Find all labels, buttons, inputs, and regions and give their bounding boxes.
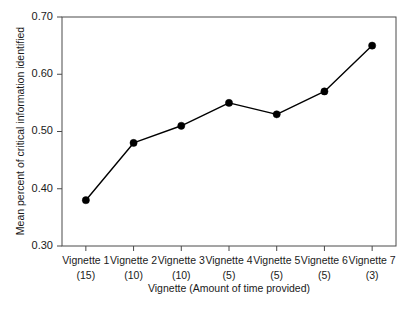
x-tick-label: Vignette 2 [110, 254, 157, 266]
data-point-marker [369, 42, 376, 49]
data-point-marker [321, 88, 328, 95]
data-point-marker [178, 122, 185, 129]
x-tick-sublabel: (5) [223, 269, 236, 281]
data-point-marker [82, 197, 89, 204]
x-axis-ticks [86, 246, 372, 251]
x-axis-title: Vignette (Amount of time provided) [148, 282, 310, 294]
y-tick-label: 0.40 [32, 182, 53, 194]
x-tick-label: Vignette 4 [205, 254, 252, 266]
data-point-marker [225, 99, 232, 106]
y-tick-label: 0.50 [32, 124, 53, 136]
y-axis-title: Mean percent of critical information ide… [14, 27, 26, 236]
data-point-marker [130, 139, 137, 146]
x-tick-label: Vignette 3 [158, 254, 205, 266]
chart-figure: 0.300.400.500.600.70 Vignette 1(15)Vigne… [0, 0, 418, 311]
x-tick-sublabel: (15) [77, 269, 96, 281]
y-axis-ticks [57, 17, 62, 246]
x-tick-label: Vignette 7 [349, 254, 396, 266]
y-tick-label: 0.30 [32, 239, 53, 251]
x-tick-labels: Vignette 1(15)Vignette 2(10)Vignette 3(1… [62, 254, 396, 281]
plot-frame [62, 17, 396, 246]
x-tick-label: Vignette 6 [301, 254, 348, 266]
x-tick-sublabel: (5) [270, 269, 283, 281]
x-tick-sublabel: (10) [172, 269, 191, 281]
y-tick-label: 0.60 [32, 67, 53, 79]
x-tick-sublabel: (3) [366, 269, 379, 281]
data-point-marker [273, 111, 280, 118]
x-tick-sublabel: (5) [318, 269, 331, 281]
y-tick-label: 0.70 [32, 10, 53, 22]
x-tick-label: Vignette 1 [62, 254, 109, 266]
x-tick-label: Vignette 5 [253, 254, 300, 266]
data-series [82, 42, 375, 204]
y-tick-labels: 0.300.400.500.600.70 [32, 10, 53, 251]
series-polyline [86, 46, 372, 201]
line-chart: 0.300.400.500.600.70 Vignette 1(15)Vigne… [0, 0, 418, 311]
x-tick-sublabel: (10) [124, 269, 143, 281]
